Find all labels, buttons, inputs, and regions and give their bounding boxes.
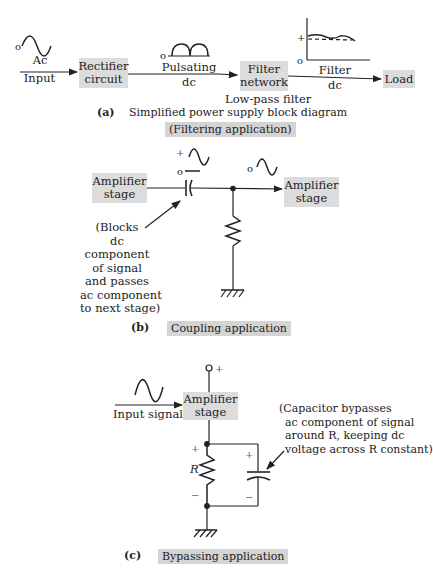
note-line: voltage across R constant) [279, 443, 433, 457]
ac-input-label-2: Input [12, 72, 67, 85]
note-line: (Blocks [80, 221, 154, 235]
minus-marker: − [245, 491, 253, 504]
note-line: around R, keeping dc [279, 429, 433, 443]
note-line: of signal [80, 262, 154, 276]
zero-marker: o [15, 40, 21, 53]
plus-marker: + [176, 146, 184, 159]
plus-marker: + [245, 448, 253, 461]
load-block: Load [383, 70, 415, 88]
rectifier-circuit-block: Rectifier circuit [79, 58, 128, 88]
note-line: and passes [80, 275, 154, 289]
panel-b-caption: Coupling application [167, 321, 291, 336]
pulsating-label-1: Pulsating [155, 61, 223, 74]
note-line: dc [80, 235, 154, 249]
note-line: component [80, 248, 154, 262]
pulsating-dc-icon [172, 44, 208, 56]
plus-marker: + [297, 31, 305, 44]
amplifier-stage-right: Amplifier stage [284, 177, 339, 207]
amp-label-2: stage [296, 192, 328, 205]
load-label: Load [385, 73, 414, 86]
filter-dc-label-2: dc [310, 79, 360, 92]
rectifier-label-2: circuit [85, 73, 123, 86]
note-line: to next stage) [80, 302, 154, 316]
panel-c-caption: Bypassing application [158, 549, 288, 564]
amp-label-2: stage [195, 406, 227, 419]
amplifier-stage-left: Amplifier stage [92, 173, 147, 203]
amplifier-stage: Amplifier stage [183, 392, 238, 420]
low-pass-filter-label: Low-pass filter [225, 93, 305, 106]
zero-marker: o [247, 162, 253, 175]
note-line: (Capacitor bypasses [279, 402, 433, 416]
resistor-label: R [190, 463, 199, 476]
note-line: ac component of signal [279, 416, 433, 430]
zero-marker: o [297, 54, 303, 67]
coupling-note: (Blocks dc component of signal and passe… [80, 221, 154, 316]
panel-a-caption: Simplified power supply block diagram [129, 106, 347, 119]
zero-marker: o [177, 165, 183, 178]
amp-label-2: stage [104, 188, 136, 201]
minus-marker: − [191, 489, 199, 502]
panel-a-caption-highlight: (Filtering application) [165, 122, 296, 137]
pulsating-label-2: dc [155, 76, 223, 89]
panel-c-letter: (c) [124, 549, 141, 562]
ac-input-label-1: Ac [20, 54, 60, 67]
input-signal-label: Input signal [112, 408, 184, 421]
panel-b-letter: (b) [131, 321, 149, 334]
note-line: ac component [80, 289, 154, 303]
plus-marker: + [191, 442, 199, 455]
filter-dc-label-1: Filter [310, 64, 360, 77]
filter-network-block: Filter network [240, 61, 288, 91]
plus-marker: + [215, 362, 223, 375]
filter-network-label-2: network [240, 76, 288, 89]
bypass-note: (Capacitor bypasses ac component of sign… [279, 402, 433, 456]
panel-a-letter: (a) [97, 106, 115, 119]
